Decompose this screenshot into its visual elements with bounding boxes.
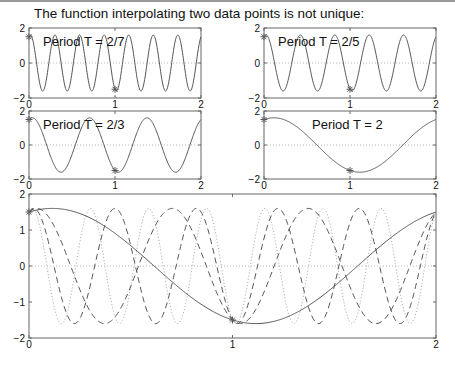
subplot-overlay: 012−2−1012 [14, 189, 440, 351]
figure-canvas: 012−202Period T = 2/7 012−202Period T = … [0, 0, 455, 368]
y-tick-label: 0 [19, 261, 25, 272]
y-tick-label: 2 [254, 106, 260, 117]
x-tick-label: 1 [347, 180, 353, 191]
subplot-period-2-7: 012−202Period T = 2/7 [14, 23, 205, 111]
y-tick-label: 0 [254, 140, 260, 151]
x-tick-label: 0 [26, 339, 32, 350]
x-tick-label: 0 [26, 99, 32, 110]
y-tick-label: −2 [249, 174, 261, 185]
x-tick-label: 2 [433, 99, 439, 110]
y-tick-label: 2 [254, 23, 260, 34]
x-tick-label: 0 [261, 180, 267, 191]
y-tick-label: 2 [19, 106, 25, 117]
x-tick-label: 0 [26, 180, 32, 191]
y-tick-label: 2 [19, 23, 25, 34]
y-tick-label: 1 [19, 225, 25, 236]
x-tick-label: 1 [112, 180, 118, 191]
x-tick-label: 2 [433, 339, 439, 350]
y-tick-label: −2 [14, 93, 26, 104]
x-tick-label: 1 [230, 339, 236, 350]
y-tick-label: −1 [14, 297, 26, 308]
period-label: Period T = 2 [312, 117, 383, 132]
x-tick-label: 2 [198, 99, 204, 110]
y-tick-label: −2 [14, 333, 26, 344]
x-tick-label: 0 [261, 99, 267, 110]
x-tick-label: 2 [433, 180, 439, 191]
y-tick-label: 0 [19, 140, 25, 151]
y-tick-label: 0 [254, 58, 260, 69]
subplot-period-2: 012−202Period T = 2 [249, 106, 440, 192]
y-tick-label: 2 [19, 189, 25, 200]
x-tick-label: 2 [198, 180, 204, 191]
x-tick-label: 1 [112, 99, 118, 110]
subplot-period-2-3: 012−202Period T = 2/3 [14, 106, 205, 192]
x-tick-label: 1 [347, 99, 353, 110]
subplot-period-2-5: 012−202Period T = 2/5 [249, 23, 440, 111]
period-label: Period T = 2/5 [278, 34, 360, 49]
y-tick-label: 0 [19, 58, 25, 69]
y-tick-label: −2 [14, 174, 26, 185]
period-label: Period T = 2/3 [43, 117, 125, 132]
y-tick-label: −2 [249, 93, 261, 104]
period-label: Period T = 2/7 [43, 34, 125, 49]
